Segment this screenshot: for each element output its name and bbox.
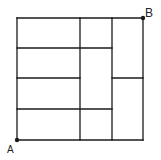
label-a: A: [7, 145, 14, 155]
grid-diagram: [0, 0, 161, 160]
label-b: B: [145, 7, 153, 19]
point-a: [15, 138, 19, 142]
